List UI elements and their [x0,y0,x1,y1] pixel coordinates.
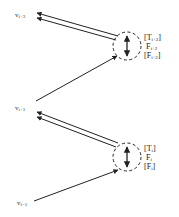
upper-label-F-bracket: [Fi+2] [144,52,161,62]
node-sub: i+1 [19,107,26,112]
double-arrow-upper-to-vi3 [37,13,118,40]
node-label-vi3: vi+3 [15,11,25,21]
label-sub: i+2 [150,46,157,51]
bracket-close: ] [158,33,161,42]
double-arrow-lower-to-vi1 [37,112,118,147]
lower-label-F-bracket: [Fi] [144,163,155,173]
bracket-close: ] [153,162,156,171]
edge-vi1-to-upper [36,56,117,101]
bracket-close: ] [158,51,161,60]
node-sub: i−1 [21,202,28,207]
node-label-vi1: vi+1 [15,104,25,114]
bracket-close: ] [153,144,156,153]
diagram-canvas [0,0,179,217]
label-sub: i+2 [151,55,158,60]
node-sub: i+3 [19,14,26,19]
edge-vim1-to-lower [34,170,118,201]
node-label-vim1: vi−1 [17,199,27,209]
